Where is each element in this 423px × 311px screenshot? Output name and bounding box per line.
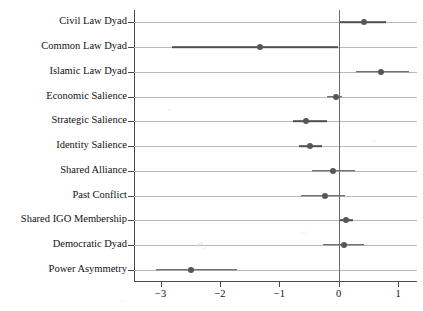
- y-axis-label-economic-salience: Economic Salience: [46, 91, 127, 102]
- point-estimate-dot: [257, 44, 263, 50]
- y-axis-tick: [128, 171, 134, 172]
- y-axis-label-islamic-law-dyad: Islamic Law Dyad: [49, 66, 127, 77]
- y-axis-tick: [128, 47, 134, 48]
- point-estimate-dot: [343, 217, 349, 223]
- coefficient-plot-figure: Civil Law DyadCommon Law DyadIslamic Law…: [0, 0, 423, 311]
- x-axis-tick: [161, 282, 162, 287]
- y-axis-tick: [128, 121, 134, 122]
- y-axis-tick: [128, 196, 134, 197]
- gridline-row: [134, 121, 417, 122]
- x-axis-tick-label: −3: [155, 289, 166, 300]
- y-axis-tick: [128, 220, 134, 221]
- y-axis-tick: [128, 245, 134, 246]
- y-axis-label-column: Civil Law DyadCommon Law DyadIslamic Law…: [0, 0, 127, 311]
- zero-reference-line: [339, 10, 340, 282]
- y-axis-label-common-law-dyad: Common Law Dyad: [41, 41, 127, 52]
- confidence-interval-bar: [293, 121, 327, 123]
- point-estimate-dot: [322, 193, 328, 199]
- point-estimate-dot: [188, 267, 194, 273]
- y-axis-tick: [128, 97, 134, 98]
- x-axis-tick-label: −2: [214, 289, 225, 300]
- y-axis-label-shared-alliance: Shared Alliance: [60, 165, 127, 176]
- point-estimate-dot: [307, 143, 313, 149]
- point-estimate-dot: [303, 118, 309, 124]
- y-axis-tick: [128, 270, 134, 271]
- x-axis-tick: [398, 282, 399, 287]
- y-axis-label-past-conflict: Past Conflict: [72, 190, 127, 201]
- y-axis-label-democratic-dyad: Democratic Dyad: [53, 239, 127, 250]
- x-axis-tick-label: 1: [395, 289, 400, 300]
- plot-area: [134, 10, 417, 282]
- x-axis-tick: [220, 282, 221, 287]
- gridline-row: [134, 220, 417, 221]
- gridline-row: [134, 196, 417, 197]
- point-estimate-dot: [361, 19, 367, 25]
- point-estimate-dot: [330, 168, 336, 174]
- x-axis-tick: [339, 282, 340, 287]
- y-axis-label-shared-igo-membership: Shared IGO Membership: [21, 214, 127, 225]
- point-estimate-dot: [378, 69, 384, 75]
- y-axis-label-identity-salience: Identity Salience: [56, 140, 127, 151]
- y-axis-label-power-asymmetry: Power Asymmetry: [49, 264, 127, 275]
- gridline-row: [134, 171, 417, 172]
- x-axis-tick-label: 0: [336, 289, 341, 300]
- gridline-row: [134, 245, 417, 246]
- y-axis-label-strategic-salience: Strategic Salience: [51, 115, 127, 126]
- y-axis-tick: [128, 146, 134, 147]
- y-axis-label-civil-law-dyad: Civil Law Dyad: [59, 16, 127, 27]
- gridline-row: [134, 97, 417, 98]
- x-axis-tick-label: −1: [274, 289, 285, 300]
- y-axis-tick: [128, 72, 134, 73]
- gridline-row: [134, 146, 417, 147]
- point-estimate-dot: [341, 242, 347, 248]
- x-axis-tick: [279, 282, 280, 287]
- confidence-interval-bar: [156, 269, 237, 271]
- confidence-interval-bar: [172, 46, 338, 48]
- y-axis-tick: [128, 22, 134, 23]
